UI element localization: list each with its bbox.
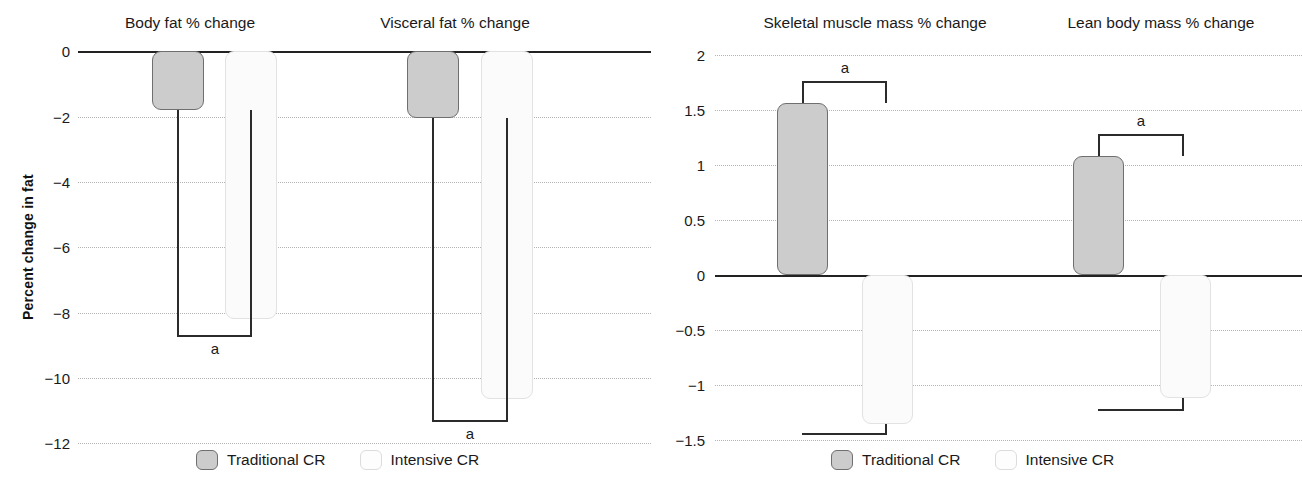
legend-label-traditional: Traditional CR <box>862 451 961 469</box>
significance-bracket-body-fat <box>177 110 252 337</box>
significance-label-skeletal-muscle: a <box>806 60 884 75</box>
gridline-minus-8 <box>78 313 651 314</box>
ytick-label-minus-1: −1 <box>653 378 705 393</box>
ytick-label-1-5: 1.5 <box>653 103 705 118</box>
bar-traditional-skeletal-muscle <box>777 103 828 275</box>
bar-traditional-body-fat <box>152 51 204 110</box>
legend-item-traditional: Traditional CR <box>831 450 961 470</box>
significance-bracket-visceral-fat <box>432 118 508 422</box>
ytick-label-minus-0-5: −0.5 <box>653 323 705 338</box>
significance-label-lean-body-mass: a <box>1102 113 1180 128</box>
ytick-label-0: 0 <box>18 44 70 59</box>
legend-label-traditional: Traditional CR <box>227 451 326 469</box>
legend-item-traditional: Traditional CR <box>196 450 326 470</box>
legend-swatch-intensive-icon <box>995 450 1017 470</box>
ytick-label-minus-4: −4 <box>18 175 70 190</box>
legend-fat-panel: Traditional CR Intensive CR <box>196 450 479 470</box>
group-title-lean-body-mass: Lean body mass % change <box>1036 14 1286 32</box>
ytick-label-0: 0 <box>653 268 705 283</box>
ytick-label-minus-2: −2 <box>18 110 70 125</box>
bar-traditional-visceral-fat <box>407 51 459 118</box>
ytick-label-minus-6: −6 <box>18 240 70 255</box>
gridline-minus-1-5 <box>715 440 1302 441</box>
chart-panel-fat: Percent change in fat Body fat % change … <box>0 0 651 493</box>
legend-swatch-traditional-icon <box>831 450 853 470</box>
gridline-minus-2 <box>78 117 651 118</box>
significance-bracket-lean-body-mass <box>1098 134 1184 156</box>
bar-intensive-lean-body-mass <box>1160 275 1211 398</box>
ytick-label-minus-1-5: −1.5 <box>653 433 705 448</box>
group-title-visceral-fat: Visceral fat % change <box>365 14 545 32</box>
bar-intensive-skeletal-muscle <box>862 275 913 424</box>
gridline-2 <box>715 55 1302 56</box>
legend-label-intensive: Intensive CR <box>391 451 480 469</box>
gridline-minus-6 <box>78 247 651 248</box>
group-title-body-fat: Body fat % change <box>110 14 270 32</box>
legend-item-intensive: Intensive CR <box>360 450 480 470</box>
chart-panel-lean: Skeletal muscle mass % change Lean body … <box>651 0 1302 493</box>
gridline-minus-12 <box>78 443 651 444</box>
figure-root: Percent change in fat Body fat % change … <box>0 0 1302 493</box>
group-title-skeletal-muscle: Skeletal muscle mass % change <box>725 14 1025 32</box>
legend-swatch-traditional-icon <box>196 450 218 470</box>
legend-lean-panel: Traditional CR Intensive CR <box>831 450 1114 470</box>
gridline-minus-1 <box>715 385 1302 386</box>
gridline-minus-4 <box>78 182 651 183</box>
gridline-minus-0-5 <box>715 330 1302 331</box>
ytick-label-0-5: 0.5 <box>653 213 705 228</box>
legend-swatch-intensive-icon <box>360 450 382 470</box>
significance-label-body-fat: a <box>180 341 250 356</box>
ytick-label-2: 2 <box>653 48 705 63</box>
significance-bracket-skeletal-muscle-lower <box>802 424 887 435</box>
legend-label-intensive: Intensive CR <box>1026 451 1115 469</box>
gridline-minus-10 <box>78 378 651 379</box>
bar-traditional-lean-body-mass <box>1073 156 1124 275</box>
gridline-0 <box>715 275 1302 277</box>
ytick-label-minus-12: −12 <box>18 436 70 451</box>
significance-label-visceral-fat: a <box>435 426 505 441</box>
legend-item-intensive: Intensive CR <box>995 450 1115 470</box>
ytick-label-minus-8: −8 <box>18 306 70 321</box>
ytick-label-1: 1 <box>653 158 705 173</box>
significance-bracket-lean-body-mass-lower <box>1098 398 1184 411</box>
significance-bracket-skeletal-muscle <box>802 81 887 103</box>
ytick-label-minus-10: −10 <box>18 371 70 386</box>
